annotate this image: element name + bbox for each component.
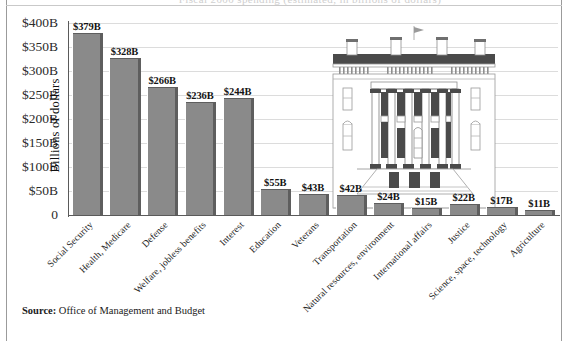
x-category-label: Justice (445, 219, 472, 246)
x-axis-category-labels: Social SecurityHealth, MedicareDefenseWe… (0, 0, 570, 341)
x-category-label: Education (247, 219, 283, 255)
source-text: Office of Management and Budget (59, 305, 205, 316)
chart-page: Fiscal 2000 spending (estimated, in bill… (0, 0, 570, 341)
source-label: Source: (22, 305, 56, 316)
x-category-label: Veterans (289, 219, 321, 251)
x-category-label: Agriculture (507, 219, 547, 259)
x-category-label: Defense (139, 219, 170, 250)
x-category-label: Welfare, jobless benefits (131, 219, 207, 295)
x-category-label: Interest (217, 219, 246, 248)
x-category-label: Science, space, technology (427, 219, 510, 302)
source-note: Source: Office of Management and Budget (22, 305, 205, 316)
